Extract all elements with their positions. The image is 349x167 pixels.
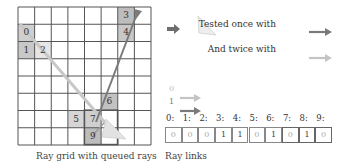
legend-twice-label: And twice with <box>208 44 276 54</box>
link-index-label: 5: <box>250 113 267 123</box>
grid-cell-label: 7 <box>85 111 102 128</box>
ray-links-caption: Ray links <box>165 151 207 161</box>
grid-cell-label: 6 <box>101 93 118 110</box>
link-index-label: 3: <box>216 113 233 123</box>
link-cell: 0 <box>182 127 199 143</box>
link-cell: 0 <box>282 127 299 143</box>
ray-grid: 012345679 <box>18 7 151 145</box>
arrow-icon <box>167 19 181 38</box>
grid-cell-label: 9 <box>85 128 102 145</box>
ray-grid-caption: Ray grid with queued rays <box>36 151 157 161</box>
link-cell: 0 <box>165 127 182 143</box>
link-cell: 1 <box>265 127 282 143</box>
links-key-0-label: 0 <box>169 84 174 93</box>
link-cell: 1 <box>299 127 316 143</box>
link-cell: 1 <box>232 127 249 143</box>
link-index-label: 6: <box>266 113 283 123</box>
legend-once-label: Tested once with <box>199 19 276 29</box>
link-index-label: 0: <box>166 113 183 123</box>
link-index-label: 8: <box>300 113 317 123</box>
grid-cell-label: 4 <box>118 24 135 41</box>
legend-twice-arrow-icon <box>309 47 333 66</box>
link-cell: 0 <box>249 127 266 143</box>
legend-once-arrow-icon <box>309 21 333 40</box>
grid-cell-label: 1 <box>18 42 35 59</box>
link-cell: 0 <box>315 127 332 143</box>
grid-cell-label: 2 <box>35 42 52 59</box>
link-index-label: 4: <box>233 113 250 123</box>
link-cell: 1 <box>215 127 232 143</box>
links-key-1-label: 1 <box>169 97 174 106</box>
link-index-label: 7: <box>283 113 300 123</box>
link-index-label: 9: <box>316 113 333 123</box>
grid-cell-label: 3 <box>118 7 135 24</box>
grid-cell-label: 5 <box>68 111 85 128</box>
link-index-label: 1: <box>183 113 200 123</box>
link-cell: 0 <box>198 127 215 143</box>
link-index-label: 2: <box>199 113 216 123</box>
grid-cell-label: 0 <box>18 24 35 41</box>
